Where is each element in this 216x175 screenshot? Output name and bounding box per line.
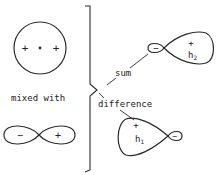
h2-plus: + — [188, 38, 194, 48]
orbital-hybridization-diagram: + + mixed with − + sum difference — [0, 0, 216, 175]
difference-label: difference — [98, 99, 152, 109]
curly-brace — [85, 6, 97, 172]
s-orbital-plus-right: + — [53, 42, 60, 55]
p-orbital: − + — [4, 126, 75, 144]
hybrid-orbital-h2: − + h2 — [148, 32, 214, 64]
s-orbital: + + — [14, 22, 66, 74]
sum-label: sum — [115, 68, 131, 78]
h2-label: h2 — [188, 50, 197, 61]
s-orbital-plus-left: + — [22, 42, 29, 55]
difference-connector: difference — [98, 93, 152, 120]
h2-minus: − — [153, 43, 159, 53]
mixed-with-label: mixed with — [11, 93, 65, 103]
sum-connector: sum — [107, 54, 148, 85]
p-orbital-plus: + — [55, 130, 61, 141]
nucleus-dot — [39, 47, 42, 50]
h1-label: h1 — [135, 134, 144, 145]
hybrid-orbital-h1: + − h1 — [118, 118, 182, 155]
p-orbital-minus: − — [17, 130, 23, 141]
h1-minus: − — [173, 132, 178, 141]
h1-plus: + — [133, 120, 139, 130]
